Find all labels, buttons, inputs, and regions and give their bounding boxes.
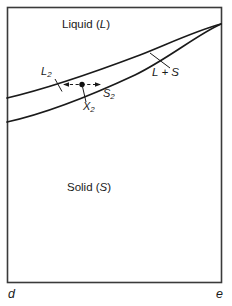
region-label-solid: Solid (S) (67, 182, 111, 194)
region-label-two-phase: L + S (152, 67, 179, 79)
axis-label-d: d (8, 288, 15, 301)
region-label-liquid-close: ) (106, 18, 110, 30)
region-label-liquid-text: Liquid ( (62, 18, 100, 30)
plot-frame (8, 8, 222, 283)
region-label-solid-close: ) (107, 181, 111, 193)
liquidus-composition-label-sub: 2 (47, 70, 51, 79)
liquidus-curve (7, 24, 221, 98)
overall-composition-label: X2 (83, 101, 95, 112)
overall-composition-label-sub: 2 (90, 105, 94, 114)
solidus-curve (7, 24, 221, 122)
solidus-composition-label-sub: 2 (110, 92, 114, 101)
axis-label-e: e (216, 288, 223, 301)
phase-diagram-figure: Liquid (L) Solid (S) L2 S2 X2 L + S d e (0, 0, 232, 306)
solidus-composition-label: S2 (103, 88, 115, 99)
liquidus-composition-label: L2 (41, 66, 52, 77)
region-label-liquid: Liquid (L) (62, 19, 110, 31)
phase-diagram-canvas (0, 0, 232, 306)
region-label-solid-text: Solid ( (67, 181, 100, 193)
